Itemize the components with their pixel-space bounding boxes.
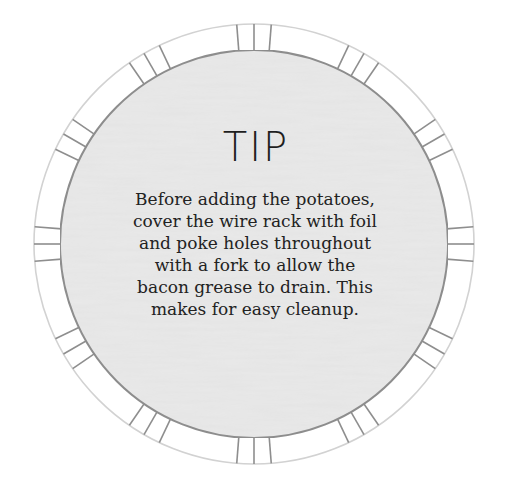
tip-body-line: and poke holes throughout xyxy=(96,232,414,254)
tip-title: TIP xyxy=(0,124,512,170)
tip-body-line: with a fork to allow the xyxy=(96,254,414,276)
tip-body-line: makes for easy cleanup. xyxy=(96,298,414,320)
tip-body-line: bacon grease to drain. This xyxy=(96,276,414,298)
tip-body-text: Before adding the potatoes, cover the wi… xyxy=(96,188,414,320)
tip-body-line: cover the wire rack with foil xyxy=(96,210,414,232)
tip-body-line: Before adding the potatoes, xyxy=(96,188,414,210)
